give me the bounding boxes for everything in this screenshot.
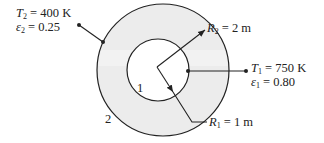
e2-label: ε2 = 0.25: [16, 21, 60, 37]
r2-label: R2 = 2 m: [207, 22, 251, 38]
e1-label: ε1 = 0.80: [251, 76, 295, 92]
t1-dot-outer: [244, 69, 248, 73]
t2-leader: [79, 25, 103, 42]
surface-1-label: 1: [137, 82, 143, 95]
r1-label: R1 = 1 m: [209, 116, 253, 132]
t2-dot-label: [77, 23, 81, 27]
surface-2-label: 2: [105, 113, 111, 126]
t1-dot-inner: [186, 69, 190, 73]
t2-dot-surface: [101, 40, 105, 44]
